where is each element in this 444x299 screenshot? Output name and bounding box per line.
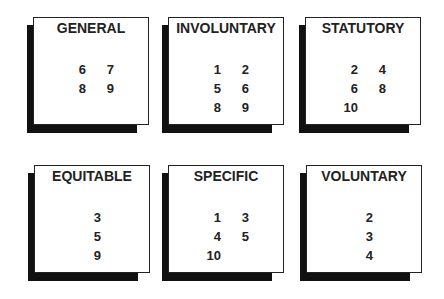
card-numbers: 359 xyxy=(35,210,149,263)
number-item: 9 xyxy=(83,248,101,263)
card-numbers: 125689 xyxy=(169,62,283,115)
number-item xyxy=(368,100,386,115)
card-title: VOLUNTARY xyxy=(307,168,421,184)
card-numbers: 6789 xyxy=(34,62,148,96)
card-box: SPECIFIC134510 xyxy=(168,165,284,273)
card-numbers: 246810 xyxy=(306,62,420,115)
category-card-involuntary: INVOLUNTARY125689 xyxy=(168,17,284,125)
card-title: SPECIFIC xyxy=(169,168,283,184)
category-card-voluntary: VOLUNTARY234 xyxy=(306,165,422,273)
number-item: 10 xyxy=(340,100,358,115)
number-item: 4 xyxy=(368,62,386,77)
number-item: 6 xyxy=(231,81,249,96)
category-card-equitable: EQUITABLE359 xyxy=(34,165,150,273)
card-box: INVOLUNTARY125689 xyxy=(168,17,284,125)
card-box: STATUTORY246810 xyxy=(305,17,421,125)
number-item: 6 xyxy=(68,62,86,77)
number-item: 8 xyxy=(68,81,86,96)
number-item: 8 xyxy=(368,81,386,96)
card-box: EQUITABLE359 xyxy=(34,165,150,273)
number-item: 4 xyxy=(203,229,221,244)
card-title: STATUTORY xyxy=(306,20,420,36)
card-box: VOLUNTARY234 xyxy=(306,165,422,273)
card-title: INVOLUNTARY xyxy=(169,20,283,36)
number-item: 3 xyxy=(231,210,249,225)
number-item: 5 xyxy=(203,81,221,96)
number-item: 1 xyxy=(203,210,221,225)
number-item: 3 xyxy=(83,210,101,225)
number-item: 10 xyxy=(203,248,221,263)
number-item: 7 xyxy=(96,62,114,77)
card-box: GENERAL6789 xyxy=(33,17,149,125)
card-title: GENERAL xyxy=(34,20,148,36)
number-item: 2 xyxy=(231,62,249,77)
category-card-statutory: STATUTORY246810 xyxy=(305,17,421,125)
card-numbers: 134510 xyxy=(169,210,283,263)
number-item: 5 xyxy=(231,229,249,244)
number-item: 9 xyxy=(231,100,249,115)
number-item: 3 xyxy=(355,229,373,244)
number-item: 4 xyxy=(355,248,373,263)
number-item: 5 xyxy=(83,229,101,244)
number-item: 1 xyxy=(203,62,221,77)
category-card-specific: SPECIFIC134510 xyxy=(168,165,284,273)
number-item: 6 xyxy=(340,81,358,96)
card-title: EQUITABLE xyxy=(35,168,149,184)
number-item: 2 xyxy=(355,210,373,225)
number-item: 8 xyxy=(203,100,221,115)
number-item: 2 xyxy=(340,62,358,77)
card-numbers: 234 xyxy=(307,210,421,263)
number-item: 9 xyxy=(96,81,114,96)
number-item xyxy=(231,248,249,263)
category-card-general: GENERAL6789 xyxy=(33,17,149,125)
